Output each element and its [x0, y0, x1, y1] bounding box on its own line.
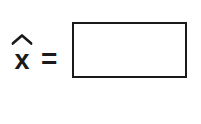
equation-expression: x = [10, 22, 57, 74]
variable-symbol-x: x [10, 47, 34, 74]
answer-input-box[interactable] [72, 22, 187, 78]
circumflex-hat-icon [12, 34, 33, 45]
equals-sign: = [41, 45, 57, 73]
x-hat-variable: x [10, 34, 34, 74]
worksheet-canvas: x = [0, 0, 201, 124]
